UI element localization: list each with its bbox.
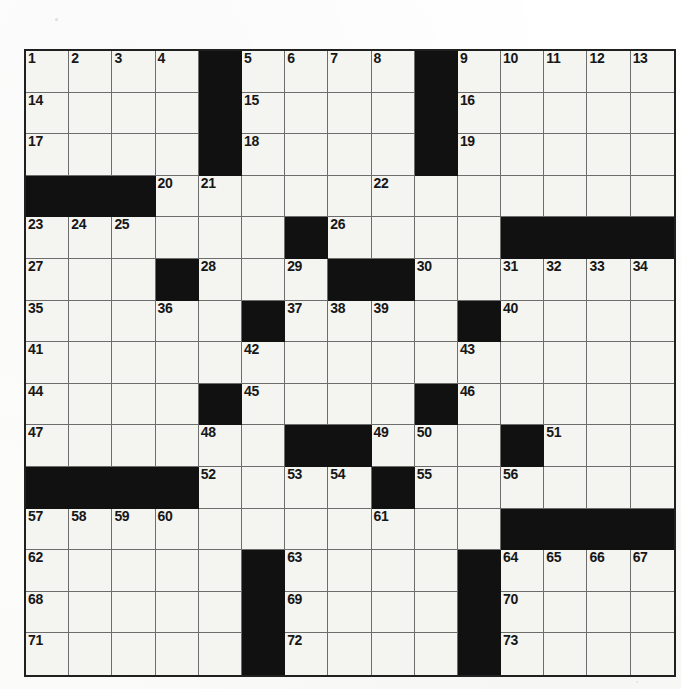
letter-cell[interactable] (112, 93, 155, 135)
letter-cell[interactable] (544, 342, 587, 384)
letter-cell[interactable]: 30 (415, 259, 458, 301)
letter-cell[interactable] (242, 467, 285, 509)
letter-cell[interactable]: 57 (26, 509, 69, 551)
letter-cell[interactable]: 45 (242, 384, 285, 426)
letter-cell[interactable] (587, 633, 630, 675)
letter-cell[interactable]: 59 (112, 509, 155, 551)
letter-cell[interactable]: 1 (26, 51, 69, 93)
letter-cell[interactable] (631, 93, 674, 135)
letter-cell[interactable] (199, 509, 242, 551)
letter-cell[interactable] (587, 467, 630, 509)
letter-cell[interactable]: 15 (242, 93, 285, 135)
letter-cell[interactable] (112, 342, 155, 384)
letter-cell[interactable] (544, 633, 587, 675)
letter-cell[interactable] (631, 176, 674, 218)
letter-cell[interactable] (328, 550, 371, 592)
letter-cell[interactable]: 7 (328, 51, 371, 93)
letter-cell[interactable]: 41 (26, 342, 69, 384)
letter-cell[interactable] (415, 301, 458, 343)
letter-cell[interactable]: 62 (26, 550, 69, 592)
letter-cell[interactable] (587, 301, 630, 343)
letter-cell[interactable]: 13 (631, 51, 674, 93)
letter-cell[interactable] (285, 176, 328, 218)
letter-cell[interactable]: 16 (458, 93, 501, 135)
letter-cell[interactable] (372, 550, 415, 592)
letter-cell[interactable] (156, 217, 199, 259)
letter-cell[interactable] (501, 342, 544, 384)
letter-cell[interactable] (544, 301, 587, 343)
letter-cell[interactable]: 73 (501, 633, 544, 675)
letter-cell[interactable] (587, 176, 630, 218)
crossword-grid[interactable]: 1234567891011121314151617181920212223242… (24, 49, 676, 677)
letter-cell[interactable]: 4 (156, 51, 199, 93)
letter-cell[interactable]: 21 (199, 176, 242, 218)
letter-cell[interactable] (544, 134, 587, 176)
letter-cell[interactable]: 22 (372, 176, 415, 218)
letter-cell[interactable] (156, 342, 199, 384)
letter-cell[interactable] (242, 217, 285, 259)
letter-cell[interactable] (69, 384, 112, 426)
letter-cell[interactable] (458, 217, 501, 259)
letter-cell[interactable] (372, 592, 415, 634)
letter-cell[interactable] (242, 259, 285, 301)
letter-cell[interactable] (112, 259, 155, 301)
letter-cell[interactable]: 63 (285, 550, 328, 592)
letter-cell[interactable]: 11 (544, 51, 587, 93)
letter-cell[interactable]: 54 (328, 467, 371, 509)
letter-cell[interactable] (501, 384, 544, 426)
letter-cell[interactable]: 8 (372, 51, 415, 93)
letter-cell[interactable] (587, 592, 630, 634)
letter-cell[interactable]: 35 (26, 301, 69, 343)
letter-cell[interactable]: 28 (199, 259, 242, 301)
letter-cell[interactable]: 64 (501, 550, 544, 592)
letter-cell[interactable] (415, 550, 458, 592)
letter-cell[interactable] (544, 384, 587, 426)
letter-cell[interactable] (328, 633, 371, 675)
letter-cell[interactable] (415, 633, 458, 675)
letter-cell[interactable]: 10 (501, 51, 544, 93)
letter-cell[interactable] (415, 342, 458, 384)
letter-cell[interactable]: 20 (156, 176, 199, 218)
letter-cell[interactable]: 42 (242, 342, 285, 384)
letter-cell[interactable] (285, 342, 328, 384)
letter-cell[interactable]: 60 (156, 509, 199, 551)
letter-cell[interactable] (631, 592, 674, 634)
letter-cell[interactable] (631, 342, 674, 384)
letter-cell[interactable]: 43 (458, 342, 501, 384)
letter-cell[interactable] (631, 633, 674, 675)
letter-cell[interactable]: 71 (26, 633, 69, 675)
letter-cell[interactable] (501, 134, 544, 176)
letter-cell[interactable]: 65 (544, 550, 587, 592)
letter-cell[interactable] (285, 134, 328, 176)
letter-cell[interactable] (69, 301, 112, 343)
letter-cell[interactable]: 69 (285, 592, 328, 634)
letter-cell[interactable] (285, 93, 328, 135)
letter-cell[interactable] (458, 425, 501, 467)
letter-cell[interactable]: 32 (544, 259, 587, 301)
letter-cell[interactable] (328, 93, 371, 135)
letter-cell[interactable]: 67 (631, 550, 674, 592)
letter-cell[interactable] (587, 93, 630, 135)
letter-cell[interactable]: 72 (285, 633, 328, 675)
letter-cell[interactable]: 23 (26, 217, 69, 259)
letter-cell[interactable]: 68 (26, 592, 69, 634)
letter-cell[interactable]: 26 (328, 217, 371, 259)
letter-cell[interactable]: 29 (285, 259, 328, 301)
letter-cell[interactable]: 44 (26, 384, 69, 426)
letter-cell[interactable]: 53 (285, 467, 328, 509)
letter-cell[interactable] (372, 134, 415, 176)
letter-cell[interactable] (156, 633, 199, 675)
letter-cell[interactable] (587, 342, 630, 384)
letter-cell[interactable]: 25 (112, 217, 155, 259)
letter-cell[interactable] (156, 93, 199, 135)
letter-cell[interactable] (587, 425, 630, 467)
letter-cell[interactable]: 27 (26, 259, 69, 301)
letter-cell[interactable] (112, 550, 155, 592)
letter-cell[interactable]: 6 (285, 51, 328, 93)
letter-cell[interactable] (458, 467, 501, 509)
letter-cell[interactable] (69, 550, 112, 592)
letter-cell[interactable] (285, 384, 328, 426)
letter-cell[interactable]: 56 (501, 467, 544, 509)
letter-cell[interactable]: 52 (199, 467, 242, 509)
letter-cell[interactable] (199, 342, 242, 384)
